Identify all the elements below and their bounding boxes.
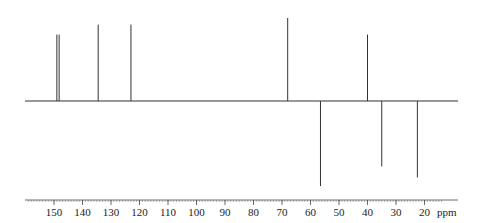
peaks-layer — [57, 18, 418, 186]
tick-label: 40 — [362, 206, 374, 218]
spectrum-plot: 1501401301201101009080706050403020 ppm — [0, 0, 478, 223]
unit-label: ppm — [437, 206, 457, 218]
tick-label: 50 — [334, 206, 346, 218]
nmr-spectrum: 1501401301201101009080706050403020 ppm — [0, 0, 478, 223]
tick-label: 100 — [188, 206, 205, 218]
tick-label: 60 — [305, 206, 317, 218]
tick-label: 140 — [74, 206, 91, 218]
tick-labels: 1501401301201101009080706050403020 — [46, 206, 431, 218]
tick-label: 90 — [220, 206, 232, 218]
tick-label: 80 — [248, 206, 260, 218]
tick-label: 110 — [160, 206, 177, 218]
tick-label: 130 — [103, 206, 120, 218]
tick-label: 120 — [131, 206, 148, 218]
tick-label: 20 — [419, 206, 431, 218]
ppm-axis: 1501401301201101009080706050403020 ppm — [25, 200, 458, 218]
tick-label: 70 — [277, 206, 289, 218]
tick-label: 30 — [391, 206, 403, 218]
tick-label: 150 — [46, 206, 63, 218]
